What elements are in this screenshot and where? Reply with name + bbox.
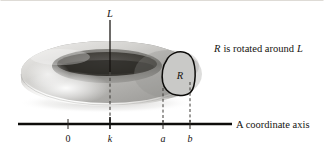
caption-R: R bbox=[213, 43, 221, 54]
torus-top-highlight bbox=[30, 49, 90, 65]
tick-label-k: k bbox=[108, 133, 113, 144]
region-R-label: R bbox=[176, 70, 184, 81]
coordinate-axis-label: A coordinate axis bbox=[236, 119, 309, 130]
tick-label-0: 0 bbox=[66, 133, 71, 144]
tick-label-b: b bbox=[188, 133, 193, 144]
svg-text:Ris rotated aroundL: Ris rotated aroundL bbox=[213, 43, 303, 54]
axis-L-label: L bbox=[106, 8, 113, 19]
caption-R-rotated-around-L: Ris rotated aroundL bbox=[213, 43, 303, 54]
caption-L: L bbox=[296, 43, 303, 54]
torus-revolution-figure: L R 0 k a b A coordinate axis Ris rotate… bbox=[0, 0, 324, 151]
tick-label-a: a bbox=[161, 133, 166, 144]
caption-middle-text: is rotated around bbox=[223, 43, 294, 54]
figure-canvas: L R 0 k a b A coordinate axis Ris rotate… bbox=[0, 0, 324, 151]
